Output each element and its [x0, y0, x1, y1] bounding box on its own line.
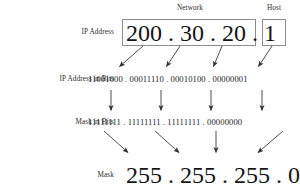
- host-section-label: Host: [254, 4, 294, 12]
- network-section-label: Network: [155, 4, 225, 12]
- mask-bits-value: 11111111 . 11111111 . 11111111 . 0000000…: [88, 117, 242, 127]
- mask-value: 255 . 255 . 255 . 0: [126, 163, 300, 187]
- row-label-ip-address: IP Address: [4, 28, 114, 36]
- ip-address-value: 200 . 30 . 20 . 1: [126, 21, 276, 45]
- row-label-mask: Mask: [4, 171, 114, 179]
- diagram-text-layer: Network Host IP Address 200 . 30 . 20 . …: [0, 0, 300, 196]
- ip-address-bits-value: 11001000 . 00011110 . 00010100 . 0000000…: [88, 74, 248, 84]
